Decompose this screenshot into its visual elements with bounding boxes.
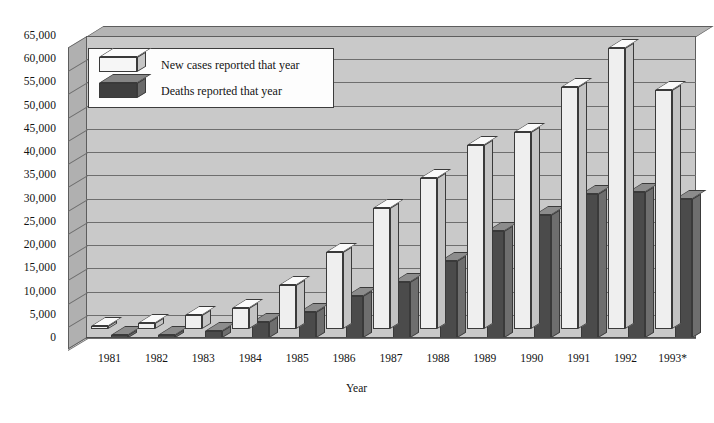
y-axis-tick: 40,000 bbox=[0, 146, 62, 158]
bar-side-face bbox=[296, 279, 305, 329]
bar-front-face bbox=[467, 145, 484, 329]
x-axis-tick: 1992 bbox=[602, 352, 649, 364]
bar-front-face bbox=[91, 326, 108, 329]
bar-side-face bbox=[390, 203, 399, 329]
bar-side-face bbox=[598, 189, 607, 338]
bar-new-cases-1988 bbox=[420, 178, 437, 329]
bar-new-cases-1986 bbox=[326, 252, 343, 329]
bar-front-face bbox=[279, 285, 296, 329]
bar-front-face bbox=[185, 315, 202, 329]
y-axis-tick: 0 bbox=[0, 332, 62, 344]
bar-new-cases-1983 bbox=[185, 315, 202, 329]
x-axis-tick: 1993* bbox=[649, 352, 696, 364]
legend-label-deaths: Deaths reported that year bbox=[161, 80, 282, 102]
x-axis-labels: 1981198219831984198519861987198819891990… bbox=[68, 352, 696, 368]
gridline bbox=[86, 175, 696, 176]
bar-front-face bbox=[514, 132, 531, 329]
x-axis-tick: 1986 bbox=[321, 352, 368, 364]
dark-box-icon bbox=[99, 83, 137, 98]
y-axis-tick: 60,000 bbox=[0, 53, 62, 65]
bar-side-face bbox=[578, 82, 587, 329]
bar-side-face bbox=[692, 193, 701, 338]
bar-front-face bbox=[655, 90, 672, 329]
bar-new-cases-1985 bbox=[279, 285, 296, 329]
bar-new-cases-1981 bbox=[91, 326, 108, 329]
bar-new-cases-1992 bbox=[608, 48, 625, 329]
y-axis-tick: 10,000 bbox=[0, 286, 62, 298]
bar-side-face bbox=[410, 277, 419, 338]
gridline bbox=[86, 152, 696, 153]
y-axis-tick: 55,000 bbox=[0, 76, 62, 88]
bar-new-cases-1993 bbox=[655, 90, 672, 329]
bar-new-cases-1991 bbox=[561, 87, 578, 329]
y-axis-tick: 15,000 bbox=[0, 262, 62, 274]
light-box-icon bbox=[99, 57, 137, 72]
y-axis-tick: 65,000 bbox=[0, 30, 62, 42]
chart-legend: New cases reported that year Deaths repo… bbox=[88, 48, 334, 108]
y-axis-tick: 20,000 bbox=[0, 239, 62, 251]
y-axis-tick: 30,000 bbox=[0, 193, 62, 205]
gridline bbox=[86, 338, 696, 339]
plot-floor bbox=[86, 337, 696, 338]
y-axis-tick: 35,000 bbox=[0, 169, 62, 181]
x-axis-title: Year bbox=[0, 382, 713, 394]
bar-side-face bbox=[484, 140, 493, 329]
bar-side-face bbox=[504, 226, 513, 338]
bar-front-face bbox=[373, 208, 390, 329]
bar-side-face bbox=[457, 256, 466, 338]
bar-side-face bbox=[437, 173, 446, 329]
bar-front-face bbox=[138, 323, 155, 329]
y-axis-tick: 50,000 bbox=[0, 100, 62, 112]
bar-new-cases-1982 bbox=[138, 323, 155, 329]
y-axis-tick: 45,000 bbox=[0, 123, 62, 135]
x-axis-tick: 1989 bbox=[461, 352, 508, 364]
bar-side-face bbox=[551, 209, 560, 338]
bar-front-face bbox=[326, 252, 343, 329]
y-axis-tick: 5,000 bbox=[0, 309, 62, 321]
y-axis-tick: 25,000 bbox=[0, 216, 62, 228]
bar-side-face bbox=[645, 186, 654, 338]
bar-front-face bbox=[232, 308, 249, 329]
x-axis-tick: 1985 bbox=[274, 352, 321, 364]
bar-side-face bbox=[343, 247, 352, 329]
bar-new-cases-1989 bbox=[467, 145, 484, 329]
bar-new-cases-1987 bbox=[373, 208, 390, 329]
x-axis-tick: 1987 bbox=[368, 352, 415, 364]
bar-front-face bbox=[608, 48, 625, 329]
y-axis-labels: 65,00060,00055,00050,00045,00040,00035,0… bbox=[0, 0, 62, 423]
x-axis-tick: 1981 bbox=[86, 352, 133, 364]
bar-new-cases-1990 bbox=[514, 132, 531, 329]
x-axis-tick: 1984 bbox=[227, 352, 274, 364]
x-axis-tick: 1990 bbox=[508, 352, 555, 364]
gridline bbox=[86, 129, 696, 130]
bar-side-face bbox=[625, 42, 634, 328]
bar-front-face bbox=[420, 178, 437, 329]
x-axis-tick: 1982 bbox=[133, 352, 180, 364]
bar-side-face bbox=[531, 126, 540, 329]
bar-new-cases-1984 bbox=[232, 308, 249, 329]
x-axis-tick: 1991 bbox=[555, 352, 602, 364]
bar-front-face bbox=[561, 87, 578, 329]
legend-label-new-cases: New cases reported that year bbox=[161, 54, 300, 76]
bar-side-face bbox=[672, 84, 681, 329]
x-axis-tick: 1988 bbox=[414, 352, 461, 364]
bar-side-face bbox=[363, 291, 372, 338]
x-axis-tick: 1983 bbox=[180, 352, 227, 364]
